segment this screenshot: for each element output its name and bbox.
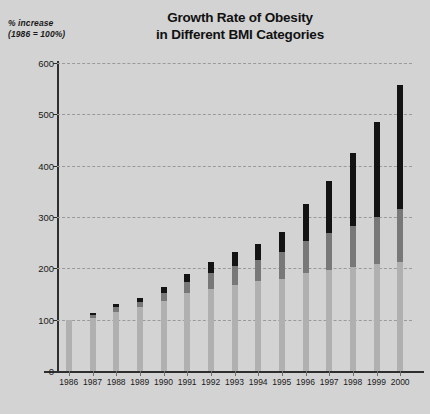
bar-segment (90, 318, 96, 371)
bar-segment (397, 262, 403, 371)
bar-segment (255, 244, 261, 260)
bar-segment (66, 320, 72, 371)
x-tick-mark (258, 371, 259, 376)
bar-segment (326, 181, 332, 233)
bar (255, 244, 261, 371)
chart-title-line1: Growth Rate of Obesity (95, 10, 385, 27)
bar-segment (397, 209, 403, 262)
y-tick-label: 0 (8, 366, 54, 377)
bar-segment (113, 312, 119, 371)
x-tick-mark (116, 371, 117, 376)
x-tick-mark (282, 371, 283, 376)
y-tick-label: 500 (8, 109, 54, 120)
y-tick-label: 100 (8, 314, 54, 325)
x-tick-mark (211, 371, 212, 376)
x-tick-mark (306, 371, 307, 376)
bar-segment (232, 252, 238, 266)
bar-segment (303, 241, 309, 273)
x-tick-mark (377, 371, 378, 376)
bar-segment (137, 307, 143, 371)
bar (350, 153, 356, 371)
bar-segment (326, 270, 332, 371)
bar (232, 252, 238, 371)
y-tick-mark (53, 114, 57, 115)
bar-segment (350, 226, 356, 267)
y-tick-mark (53, 63, 57, 64)
bar (279, 232, 285, 371)
bar-segment (161, 293, 167, 301)
bar-segment (397, 85, 403, 209)
bar (161, 287, 167, 371)
bar-segment (326, 233, 332, 270)
bar (184, 274, 190, 372)
chart-title: Growth Rate of Obesity in Different BMI … (95, 10, 385, 43)
bar (113, 304, 119, 371)
x-tick-mark (164, 371, 165, 376)
y-tick-label: 300 (8, 212, 54, 223)
gridline (57, 166, 412, 167)
bar (137, 298, 143, 371)
x-tick-mark (329, 371, 330, 376)
bar-segment (350, 153, 356, 226)
y-tick-mark (53, 268, 57, 269)
bar-segment (208, 289, 214, 371)
y-tick-mark (53, 217, 57, 218)
bar-segment (255, 260, 261, 282)
bar (397, 85, 403, 371)
bar-segment (279, 232, 285, 252)
bar-segment (208, 273, 214, 288)
x-tick-label: 2000 (385, 377, 415, 387)
bar-segment (161, 301, 167, 371)
bar-segment (232, 266, 238, 284)
chart-container: % increase (1986 = 100%) Growth Rate of … (0, 0, 430, 414)
y-axis-ticks: 0100200300400500600 (0, 0, 54, 414)
x-tick-mark (69, 371, 70, 376)
bar-segment (184, 274, 190, 282)
bar (66, 320, 72, 371)
bar-segment (303, 204, 309, 241)
y-tick-mark (53, 166, 57, 167)
chart-title-line2: in Different BMI Categories (95, 27, 385, 44)
x-tick-mark (140, 371, 141, 376)
x-tick-mark (235, 371, 236, 376)
bar-segment (279, 252, 285, 279)
y-tick-label: 200 (8, 263, 54, 274)
x-tick-mark (187, 371, 188, 376)
bar-segment (208, 262, 214, 273)
y-tick-mark (53, 371, 57, 372)
bar-segment (374, 217, 380, 264)
bar-segment (279, 279, 285, 371)
bar-segment (232, 285, 238, 371)
x-tick-mark (353, 371, 354, 376)
bar (326, 181, 332, 371)
bar-segment (374, 122, 380, 217)
bar-segment (184, 282, 190, 293)
y-tick-mark (53, 320, 57, 321)
bar-segment (184, 293, 190, 371)
bar-segment (350, 267, 356, 371)
bar (90, 313, 96, 371)
gridline (57, 217, 412, 218)
bar-segment (303, 273, 309, 371)
plot-area (57, 63, 412, 371)
x-tick-mark (93, 371, 94, 376)
bar-segment (255, 281, 261, 371)
bar (374, 122, 380, 371)
bar (303, 204, 309, 371)
x-tick-mark (400, 371, 401, 376)
y-tick-label: 600 (8, 58, 54, 69)
gridline (57, 114, 412, 115)
y-tick-label: 400 (8, 160, 54, 171)
gridline (57, 63, 412, 64)
bar (208, 262, 214, 371)
bar-segment (374, 264, 380, 371)
